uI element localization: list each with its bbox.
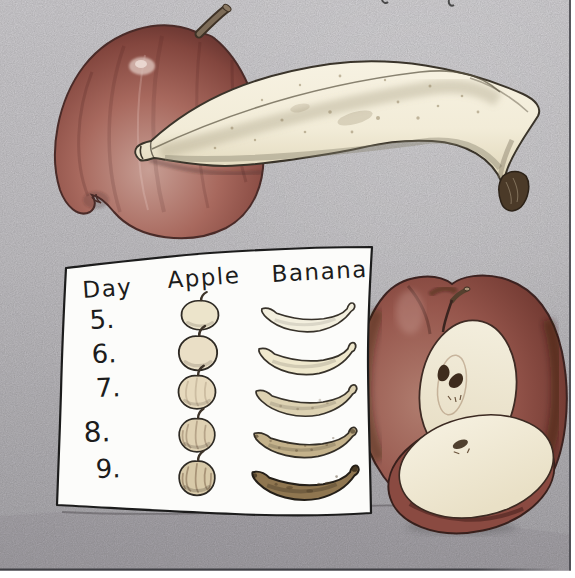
header-banana: Banana <box>271 256 368 287</box>
illustration-svg: Day Apple Banana 5. 6. 7. 8. 9. <box>0 0 575 578</box>
day-label-9: 9. <box>95 453 121 484</box>
banana-dark-end <box>255 434 259 437</box>
book-illustration-page: Day Apple Banana 5. 6. 7. 8. 9. <box>0 0 575 578</box>
page-margin-right <box>571 0 575 578</box>
header-day: Day <box>82 274 134 303</box>
banana-dark-end <box>253 473 257 477</box>
banana-dark-end <box>352 466 358 472</box>
apple-highlight-core <box>135 60 147 68</box>
day-label-6: 6. <box>91 338 117 369</box>
day-label-5: 5. <box>89 304 115 335</box>
banana-dark-end <box>350 429 355 434</box>
day-label-7: 7. <box>95 372 121 403</box>
day-label-8: 8. <box>83 415 111 449</box>
observation-chart: Day Apple Banana 5. 6. 7. 8. 9. <box>57 247 372 515</box>
page-margin-bottom <box>0 571 575 578</box>
apple-blossom-dimple <box>83 191 109 209</box>
header-apple: Apple <box>167 262 242 293</box>
